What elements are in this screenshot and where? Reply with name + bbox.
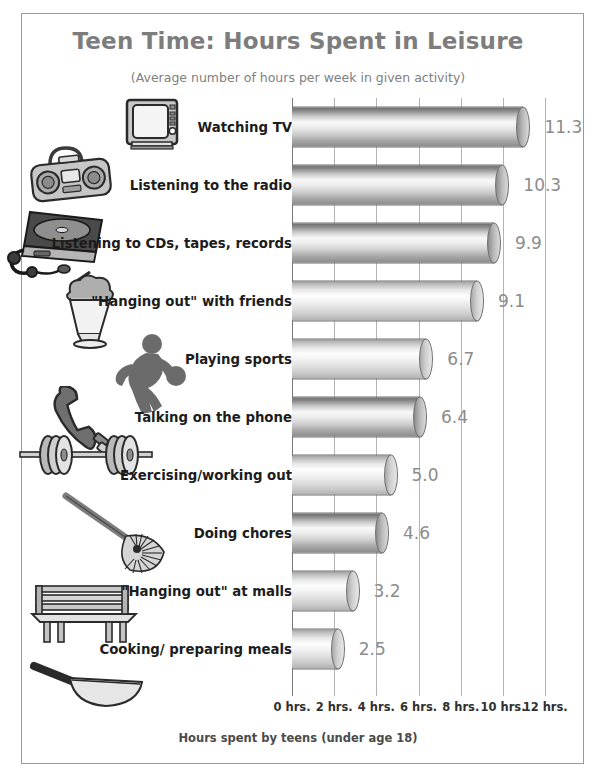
- bar-row: Talking on the phone6.4: [0, 388, 596, 446]
- category-label: Watching TV: [198, 120, 292, 135]
- bar-row: Listening to the radio10.3: [0, 156, 596, 214]
- bar-body: [292, 165, 502, 206]
- bar-row: "Hanging out" at malls3.2: [0, 562, 596, 620]
- bar-shape: [292, 165, 509, 206]
- bar-row: "Hanging out" with friends9.1: [0, 272, 596, 330]
- category-label: Listening to the radio: [130, 178, 292, 193]
- bar-body: [292, 571, 353, 612]
- category-label: "Hanging out" at malls: [121, 584, 292, 599]
- x-axis-ticks: 0 hrs.2 hrs.4 hrs.6 hrs.8 hrs.10 hrs.12 …: [0, 700, 596, 720]
- bar-row: Listening to CDs, tapes, records9.9: [0, 214, 596, 272]
- bar-row: Watching TV11.3: [0, 98, 596, 156]
- bar-shape: [292, 107, 530, 148]
- bar-value-label: 5.0: [412, 465, 439, 485]
- bar: [292, 629, 345, 670]
- chart-subtitle: (Average number of hours per week in giv…: [0, 70, 596, 85]
- category-label: Exercising/working out: [120, 468, 292, 483]
- bar-end-cap: [495, 165, 509, 206]
- bar: [292, 223, 501, 264]
- bar-value-label: 3.2: [374, 581, 401, 601]
- bar-body: [292, 281, 477, 322]
- bar-body: [292, 223, 494, 264]
- bar-end-cap: [331, 629, 345, 670]
- tick-label-2hrs: 2 hrs.: [316, 700, 353, 714]
- bar-row: Doing chores4.6: [0, 504, 596, 562]
- bar-value-label: 9.9: [515, 233, 542, 253]
- bar: [292, 571, 360, 612]
- bar: [292, 107, 530, 148]
- bar-value-label: 9.1: [498, 291, 525, 311]
- bar-value-label: 6.4: [441, 407, 468, 427]
- bar: [292, 455, 398, 496]
- bar-end-cap: [375, 513, 389, 554]
- category-label: Talking on the phone: [135, 410, 292, 425]
- bar: [292, 281, 484, 322]
- bar-end-cap: [516, 107, 530, 148]
- bar-value-label: 11.3: [544, 117, 582, 137]
- tick-label-6hrs: 6 hrs.: [400, 700, 437, 714]
- bar-row: Cooking/ preparing meals2.5: [0, 620, 596, 678]
- bar-shape: [292, 629, 345, 670]
- bar-body: [292, 107, 523, 148]
- tick-label-10hrs: 10 hrs.: [480, 700, 525, 714]
- bar-row: Exercising/working out5.0: [0, 446, 596, 504]
- bar: [292, 513, 389, 554]
- tick-label-8hrs: 8 hrs.: [442, 700, 479, 714]
- bar-body: [292, 397, 420, 438]
- bar-body: [292, 339, 426, 380]
- tick-label-4hrs: 4 hrs.: [358, 700, 395, 714]
- bar-shape: [292, 513, 389, 554]
- bar-end-cap: [470, 281, 484, 322]
- tick-label-12hrs: 12 hrs.: [523, 700, 568, 714]
- category-label: Listening to CDs, tapes, records: [51, 236, 292, 251]
- bar-shape: [292, 339, 433, 380]
- bar: [292, 165, 509, 206]
- bar-end-cap: [487, 223, 501, 264]
- bar-shape: [292, 571, 360, 612]
- bar-value-label: 10.3: [523, 175, 561, 195]
- bar-end-cap: [413, 397, 427, 438]
- bar-value-label: 4.6: [403, 523, 430, 543]
- bar-end-cap: [346, 571, 360, 612]
- bar-shape: [292, 281, 484, 322]
- page-title: Teen Time: Hours Spent in Leisure: [0, 28, 596, 54]
- category-label: Doing chores: [194, 526, 292, 541]
- category-label: Cooking/ preparing meals: [99, 642, 292, 657]
- bar-value-label: 6.7: [447, 349, 474, 369]
- bar-shape: [292, 455, 398, 496]
- bar-shape: [292, 397, 427, 438]
- bar-body: [292, 455, 391, 496]
- bar-end-cap: [384, 455, 398, 496]
- tick-label-0hrs: 0 hrs.: [273, 700, 310, 714]
- bar-body: [292, 513, 382, 554]
- bar-shape: [292, 223, 501, 264]
- bar: [292, 397, 427, 438]
- bar-value-label: 2.5: [359, 639, 386, 659]
- x-axis-label: Hours spent by teens (under age 18): [0, 731, 596, 745]
- bar: [292, 339, 433, 380]
- category-label: "Hanging out" with friends: [91, 294, 292, 309]
- category-label: Playing sports: [185, 352, 292, 367]
- bar-end-cap: [419, 339, 433, 380]
- bar-row: Playing sports6.7: [0, 330, 596, 388]
